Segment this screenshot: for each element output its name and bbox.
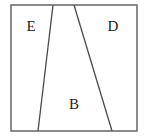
region-label-e: E (26, 18, 35, 34)
diagram-canvas: E B D (0, 0, 145, 140)
region-label-d: D (108, 18, 119, 34)
region-label-b: B (69, 96, 79, 112)
region-diagram: E B D (0, 0, 145, 140)
